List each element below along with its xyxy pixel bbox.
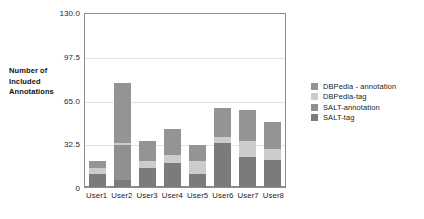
bar-segment — [139, 141, 156, 161]
legend-label: DBPedia-tag — [323, 92, 367, 101]
bar-slot — [110, 14, 135, 187]
x-axis-tick-label: User5 — [185, 191, 210, 200]
x-axis-tick-label: User8 — [261, 191, 286, 200]
legend-label: SALT-annotation — [323, 103, 380, 112]
bar-slot — [160, 14, 185, 187]
stacked-bar-chart: Number of Included Annotations 032.565.0… — [0, 0, 424, 219]
bar-segment — [189, 174, 206, 187]
chart-legend: DBPedia - annotationDBPedia-tagSALT-anno… — [311, 81, 396, 123]
bar-segment — [164, 129, 181, 155]
y-axis-tick-label: 32.5 — [46, 140, 80, 149]
stacked-bar[interactable] — [114, 83, 131, 187]
bar-segment — [114, 180, 131, 187]
x-axis-tick-label: User4 — [160, 191, 185, 200]
bar-segment — [89, 174, 106, 187]
legend-item[interactable]: SALT-annotation — [311, 102, 396, 113]
bar-slot — [85, 14, 110, 187]
stacked-bar[interactable] — [139, 141, 156, 187]
y-axis-tick-label: 130.0 — [46, 9, 80, 18]
legend-swatch-icon — [311, 93, 318, 100]
y-axis-tick-label: 97.5 — [46, 52, 80, 61]
bar-segment — [189, 145, 206, 161]
legend-item[interactable]: SALT-tag — [311, 113, 396, 124]
bar-segment — [239, 157, 256, 187]
bar-segment — [114, 83, 131, 144]
x-axis-tick-label: User7 — [236, 191, 261, 200]
bar-group — [85, 14, 285, 187]
bar-segment — [189, 161, 206, 173]
y-axis-tick-label: 65.0 — [46, 96, 80, 105]
legend-swatch-icon — [311, 114, 318, 121]
stacked-bar[interactable] — [264, 122, 281, 187]
bar-segment — [114, 145, 131, 180]
legend-label: DBPedia - annotation — [323, 82, 396, 91]
legend-swatch-icon — [311, 83, 318, 90]
bar-segment — [239, 141, 256, 157]
x-axis-tick-label: User1 — [84, 191, 109, 200]
legend-item[interactable]: DBPedia - annotation — [311, 81, 396, 92]
x-axis-tick-labels: User1User2User3User4User5User6User7User8 — [84, 191, 286, 200]
bar-segment — [264, 160, 281, 187]
bar-segment — [164, 155, 181, 163]
bar-slot — [260, 14, 285, 187]
bar-slot — [135, 14, 160, 187]
x-axis-tick-label: User2 — [109, 191, 134, 200]
legend-label: SALT-tag — [323, 113, 355, 122]
bar-segment — [139, 161, 156, 168]
y-axis-tick-labels: 032.565.097.5130.0 — [46, 0, 80, 219]
stacked-bar[interactable] — [189, 145, 206, 187]
bar-segment — [214, 108, 231, 138]
stacked-bar[interactable] — [214, 108, 231, 187]
bar-slot — [185, 14, 210, 187]
bar-segment — [139, 168, 156, 187]
x-axis-tick-label: User6 — [210, 191, 235, 200]
plot-area — [84, 13, 286, 188]
stacked-bar[interactable] — [164, 129, 181, 187]
stacked-bar[interactable] — [239, 110, 256, 187]
bar-segment — [89, 161, 106, 168]
bar-slot — [210, 14, 235, 187]
bar-segment — [164, 163, 181, 187]
bar-segment — [264, 122, 281, 149]
bar-segment — [214, 143, 231, 187]
legend-swatch-icon — [311, 104, 318, 111]
x-axis-tick-label: User3 — [135, 191, 160, 200]
y-axis-tick-label: 0 — [46, 184, 80, 193]
bar-segment — [239, 110, 256, 141]
bar-segment — [264, 149, 281, 160]
bar-slot — [235, 14, 260, 187]
legend-item[interactable]: DBPedia-tag — [311, 92, 396, 103]
stacked-bar[interactable] — [89, 161, 106, 187]
